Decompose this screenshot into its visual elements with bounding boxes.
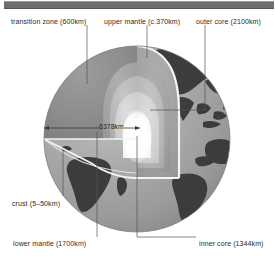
earth-cutaway-figure [0,0,275,265]
label-transition-zone: transition zone (600km) [11,17,86,26]
label-inner-core: inner core (1344km) [199,239,264,248]
globe-group [44,46,238,232]
label-lower-mantle: lower mantle (1700km) [13,239,86,248]
label-upper-mantle: upper mantle (c.370km) [104,17,180,26]
label-outer-core: outer core (2100km) [196,17,261,26]
label-crust: crust (5–50km) [12,199,60,208]
label-radius-dimension: 6378km [99,122,124,131]
